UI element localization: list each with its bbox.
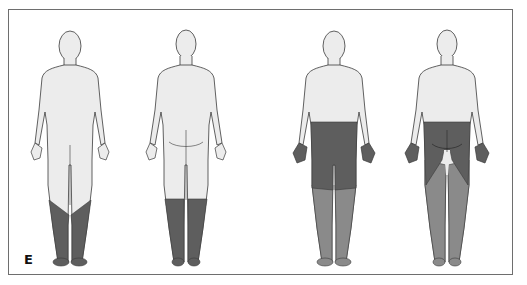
figure-posterior-1 <box>146 30 226 266</box>
panel-label: E <box>24 252 33 267</box>
shaded-waist-to-knees <box>311 122 357 190</box>
figure-anterior-1 <box>31 31 109 266</box>
shaded-lower-leg-right-medium <box>335 185 356 262</box>
shaded-lower-leg-left-medium <box>312 185 333 262</box>
shaded-hand-right <box>475 143 489 163</box>
shaded-hand-right <box>361 143 375 163</box>
shaded-lower-leg-right <box>188 199 207 262</box>
figure-anterior-2 <box>293 31 375 266</box>
shaded-lower-leg-left <box>165 199 184 262</box>
shaded-hand-left <box>293 143 307 163</box>
shaded-hand-left <box>405 143 419 163</box>
body-figures-diagram <box>0 0 527 285</box>
figure-posterior-2 <box>405 30 489 266</box>
